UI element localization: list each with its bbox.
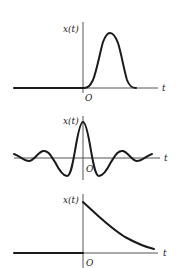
plot-gaussian-pulse: x(t) t O bbox=[14, 22, 166, 103]
gaussian-curve bbox=[14, 33, 136, 88]
x-axis-label: t bbox=[162, 83, 166, 93]
x-axis-label: t bbox=[164, 153, 168, 163]
x-axis-label: t bbox=[163, 248, 167, 258]
origin-label: O bbox=[86, 164, 94, 174]
exponential-curve bbox=[14, 202, 154, 253]
origin-label: O bbox=[86, 258, 94, 268]
signal-diagram: x(t) t O x(t) t O x(t) t O bbox=[0, 0, 179, 268]
plot-sinc-pulse: x(t) t O bbox=[14, 116, 168, 180]
plot-exponential-decay: x(t) t O bbox=[14, 194, 167, 268]
origin-label: O bbox=[85, 93, 93, 103]
y-axis-label: x(t) bbox=[63, 195, 79, 205]
y-axis-label: x(t) bbox=[63, 116, 79, 126]
y-axis-label: x(t) bbox=[63, 24, 79, 34]
